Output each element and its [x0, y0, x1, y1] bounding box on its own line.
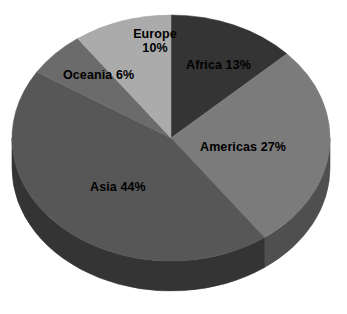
- pie-top-faces: [12, 15, 330, 261]
- pie-chart: Africa 13% Americas 27% Asia 44% Oceania…: [0, 0, 347, 314]
- pie-chart-graphic: [0, 0, 347, 314]
